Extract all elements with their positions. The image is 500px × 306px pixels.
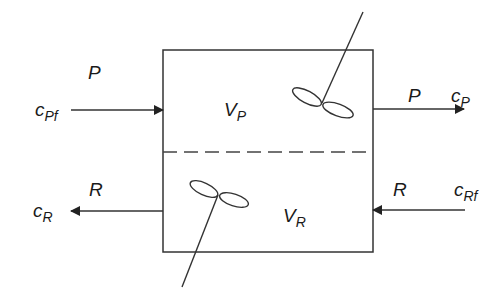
vessel-box <box>163 50 373 252</box>
retentate-feed-conc-label: cRf <box>454 180 478 203</box>
volume-subscript: P <box>237 108 246 124</box>
permeate-feed-conc-label: cPf <box>35 100 58 123</box>
retentate-outlet-flow-label: R <box>89 180 103 199</box>
conc-subscript: R <box>43 209 53 225</box>
volume-symbol: V <box>283 205 296 226</box>
top-stirrer-icon <box>290 12 363 121</box>
permeate-feed-flow-label: P <box>88 63 101 82</box>
conc-symbol: c <box>33 200 43 221</box>
conc-subscript: Pf <box>45 108 58 124</box>
bottom-stirrer-icon <box>182 177 250 287</box>
retentate-outlet-conc-label: cR <box>33 201 53 224</box>
permeate-outlet-flow-label: P <box>408 86 421 105</box>
retentate-volume-label: VR <box>283 206 306 229</box>
conc-subscript: Rf <box>464 188 478 204</box>
conc-symbol: c <box>454 179 464 200</box>
conc-symbol: c <box>451 85 461 106</box>
retentate-feed-flow-label: R <box>393 180 407 199</box>
reactor-diagram <box>0 0 500 306</box>
permeate-volume-label: VP <box>224 100 246 123</box>
conc-symbol: c <box>35 99 45 120</box>
conc-subscript: P <box>461 94 470 110</box>
volume-symbol: V <box>224 99 237 120</box>
volume-subscript: R <box>296 214 306 230</box>
permeate-outlet-conc-label: cP <box>451 86 470 109</box>
